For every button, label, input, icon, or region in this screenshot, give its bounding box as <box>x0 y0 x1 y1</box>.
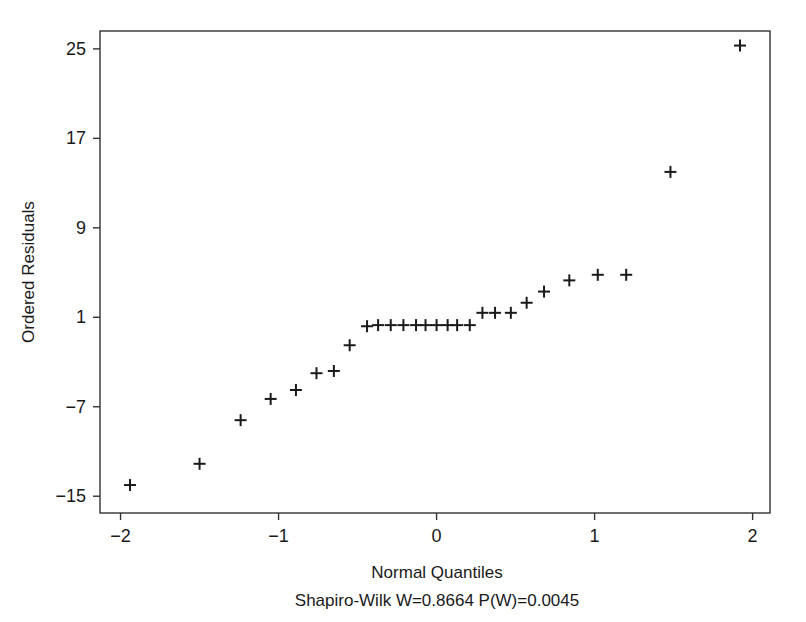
shapiro-wilk-annotation: Shapiro-Wilk W=0.8664 P(W)=0.0045 <box>295 591 579 610</box>
x-tick-label: 2 <box>748 526 758 546</box>
y-tick-label: −7 <box>65 397 86 417</box>
x-axis-label: Normal Quantiles <box>371 563 502 582</box>
x-tick-label: −2 <box>110 526 131 546</box>
y-tick-label: −15 <box>55 486 86 506</box>
y-axis-label: Ordered Residuals <box>19 201 38 343</box>
y-tick-label: 25 <box>66 39 86 59</box>
x-tick-label: 1 <box>590 526 600 546</box>
qq-plot-figure: −2−1012 251791−7−15 Normal Quantiles Sha… <box>0 0 806 622</box>
x-tick-label: −1 <box>268 526 289 546</box>
y-tick-label: 1 <box>76 307 86 327</box>
plot-canvas: −2−1012 251791−7−15 Normal Quantiles Sha… <box>0 0 806 622</box>
y-tick-label: 9 <box>76 218 86 238</box>
y-tick-label: 17 <box>66 128 86 148</box>
x-tick-label: 0 <box>432 526 442 546</box>
